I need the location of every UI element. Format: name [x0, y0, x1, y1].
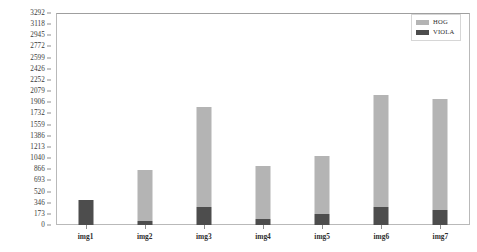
x-tick-mark: [322, 225, 323, 229]
bar-img6[interactable]: [374, 95, 389, 225]
y-tick-mark: [47, 57, 51, 58]
bar-segment-hog[interactable]: [137, 170, 152, 221]
y-tick-label: 173: [34, 210, 45, 218]
legend-label: VIOLA: [433, 29, 455, 36]
y-tick-label: 2079: [30, 87, 45, 95]
y-tick-mark: [47, 113, 51, 114]
legend-swatch-icon: [416, 20, 429, 25]
y-tick-mark: [47, 35, 51, 36]
bar-segment-hog[interactable]: [433, 99, 448, 210]
x-tick-mark: [381, 225, 382, 229]
y-tick-label: 346: [34, 199, 45, 207]
y-tick-label: 2252: [30, 76, 45, 84]
y-tick-label: 1906: [30, 98, 45, 106]
y-tick-mark: [47, 158, 51, 159]
bar-img2[interactable]: [137, 170, 152, 225]
y-tick-label: 2599: [30, 54, 45, 62]
bar-segment-viola[interactable]: [433, 210, 448, 225]
y-tick-mark: [47, 79, 51, 80]
bar-img5[interactable]: [315, 156, 330, 225]
y-tick-mark: [47, 180, 51, 181]
y-tick-mark: [47, 213, 51, 214]
x-tick-label-img2: img2: [137, 232, 153, 241]
y-tick-label: 1732: [30, 109, 45, 117]
x-tick-mark: [204, 225, 205, 229]
y-tick-mark: [47, 146, 51, 147]
bar-segment-viola[interactable]: [315, 214, 330, 225]
y-tick-label: 693: [34, 176, 45, 184]
y-tick-mark: [47, 24, 51, 25]
y-tick-label: 1559: [30, 121, 45, 129]
legend-swatch-icon: [416, 30, 429, 35]
y-tick-label: 520: [34, 188, 45, 196]
bar-segment-viola[interactable]: [374, 207, 389, 225]
x-tick-label-img1: img1: [78, 232, 94, 241]
y-tick-mark: [47, 191, 51, 192]
y-tick-label: 0: [41, 221, 45, 229]
x-tick-label-img3: img3: [196, 232, 212, 241]
x-tick-mark: [145, 225, 146, 229]
bar-segment-viola[interactable]: [137, 221, 152, 225]
legend-item-viola[interactable]: VIOLA: [416, 28, 455, 37]
bar-segment-viola[interactable]: [196, 207, 211, 225]
bar-segment-hog[interactable]: [256, 166, 271, 219]
bar-img4[interactable]: [256, 166, 271, 225]
bar-img7[interactable]: [433, 99, 448, 225]
x-tick-mark: [440, 225, 441, 229]
bar-img3[interactable]: [196, 107, 211, 225]
y-tick-label: 866: [34, 165, 45, 173]
x-tick-label-img7: img7: [433, 232, 449, 241]
y-tick-mark: [47, 13, 51, 14]
legend-item-hog[interactable]: HOG: [416, 18, 455, 27]
chart-legend: HOGVIOLA: [411, 14, 461, 41]
y-tick-label: 3118: [30, 20, 45, 28]
y-axis: 0173346520693866104012131386155917321906…: [0, 0, 56, 252]
y-tick-mark: [47, 91, 51, 92]
legend-label: HOG: [433, 19, 448, 26]
x-tick-label-img4: img4: [255, 232, 271, 241]
bar-segment-viola[interactable]: [78, 200, 93, 225]
y-tick-mark: [47, 102, 51, 103]
y-tick-label: 1386: [30, 132, 45, 140]
x-tick-mark: [86, 225, 87, 229]
y-tick-label: 2945: [30, 31, 45, 39]
y-tick-label: 3292: [30, 9, 45, 17]
bar-segment-viola[interactable]: [256, 219, 271, 225]
bar-img1[interactable]: [78, 200, 93, 225]
y-tick-mark: [47, 135, 51, 136]
y-tick-label: 1213: [30, 143, 45, 151]
bar-segment-hog[interactable]: [196, 107, 211, 207]
y-tick-label: 2772: [30, 42, 45, 50]
bar-chart: 0173346520693866104012131386155917321906…: [0, 0, 477, 252]
y-tick-mark: [47, 225, 51, 226]
x-tick-label-img6: img6: [373, 232, 389, 241]
y-tick-mark: [47, 124, 51, 125]
y-tick-mark: [47, 202, 51, 203]
y-tick-label: 1040: [30, 154, 45, 162]
x-tick-label-img5: img5: [314, 232, 330, 241]
bar-segment-hog[interactable]: [315, 156, 330, 214]
y-tick-mark: [47, 68, 51, 69]
x-tick-mark: [263, 225, 264, 229]
y-tick-mark: [47, 46, 51, 47]
bar-segment-hog[interactable]: [374, 95, 389, 207]
y-tick-mark: [47, 169, 51, 170]
y-tick-label: 2426: [30, 65, 45, 73]
